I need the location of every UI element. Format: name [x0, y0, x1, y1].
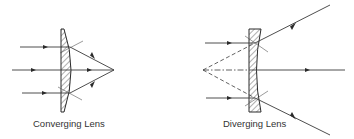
diverging-lens-label: Diverging Lens [223, 118, 287, 129]
converging-lens-body [61, 29, 71, 112]
converging-ray-top-out [70, 47, 114, 70]
diverging-ray-top-out [255, 5, 330, 43]
diverging-lens-figure: Diverging Lens [203, 5, 345, 135]
converging-arrow-middle-out [87, 68, 92, 72]
diverging-arrow-top-in [227, 41, 232, 45]
converging-lens-label: Converging Lens [33, 118, 105, 129]
diverging-virtual-bottom [203, 70, 255, 98]
converging-arrow-middle-in [31, 68, 36, 72]
diverging-arrow-middle-out [305, 68, 310, 72]
lens-diagram: Converging Lens Diverging Lens [0, 0, 354, 139]
diverging-arrow-bottom-out [290, 112, 296, 120]
converging-arrow-top-in [43, 45, 48, 49]
diverging-arrow-bottom-in [227, 96, 232, 100]
diverging-virtual-top [203, 43, 255, 70]
converging-ray-bottom-out [70, 70, 114, 93]
converging-arrow-bottom-in [42, 91, 47, 95]
converging-lens-figure: Converging Lens [12, 29, 114, 129]
